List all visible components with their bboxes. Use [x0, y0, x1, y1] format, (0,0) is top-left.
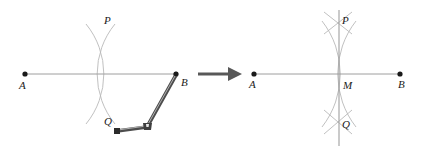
label-p-left: P — [103, 14, 111, 26]
perpendicular-bisector-figure: A B P Q — [0, 0, 423, 156]
label-b-right: B — [398, 78, 405, 90]
transform-arrow — [198, 67, 242, 81]
diagram-canvas: A B P Q — [0, 0, 423, 156]
label-p-right: P — [341, 14, 349, 26]
compass-leg-upper-highlight — [147, 76, 175, 126]
label-q-left: Q — [104, 115, 112, 127]
label-a-left: A — [18, 79, 26, 91]
arrow-head-icon — [228, 67, 242, 81]
compass-needle-tip — [174, 72, 178, 76]
label-b-left: B — [181, 76, 188, 88]
right-construction-panel: A B P Q M — [248, 10, 405, 146]
label-m-midpoint: M — [342, 79, 353, 91]
label-q-right: Q — [342, 118, 350, 130]
label-a-right: A — [248, 78, 256, 90]
point-a-left — [22, 71, 27, 76]
left-construction-panel: A B P Q — [18, 14, 188, 134]
compass-handle-knob — [114, 128, 120, 134]
compass-tool — [114, 72, 178, 134]
point-b-right — [397, 71, 402, 76]
point-a-right — [251, 71, 256, 76]
compass-hinge-notch — [146, 124, 149, 127]
